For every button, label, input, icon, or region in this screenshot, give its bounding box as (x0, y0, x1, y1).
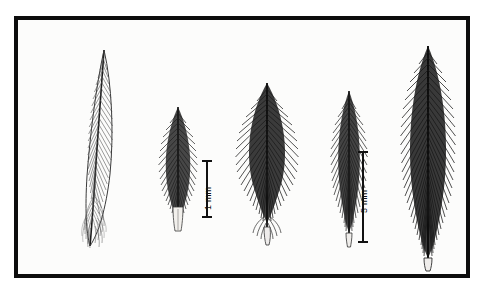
scale-bar-1mm-top-cap (202, 160, 212, 162)
body-feather-narrow-icon (320, 87, 378, 249)
scale-bar-1mm-bottom-cap (202, 216, 212, 218)
scale-bar-5mm-label: 5 mm (359, 190, 369, 213)
feather-plate-figure: 1 mm 5 mm (0, 0, 488, 295)
plate-inner-background: 1 mm 5 mm (18, 20, 466, 274)
specimen-contour-feather-whole (70, 44, 140, 254)
specimen-contour-feather-large (390, 42, 466, 272)
contour-feather-large-icon (390, 42, 466, 272)
specimen-body-feather-small (149, 103, 207, 235)
plate-frame: 1 mm 5 mm (14, 16, 470, 278)
scale-bar-5mm-top-cap (358, 151, 368, 153)
body-feather-small-icon (149, 103, 207, 235)
contour-feather-whole-icon (70, 44, 140, 254)
scale-bar-1mm-label: 1 mm (203, 187, 213, 210)
body-feather-wide-icon (224, 77, 310, 247)
scale-bar-5mm-bottom-cap (358, 241, 368, 243)
specimen-body-feather-narrow (320, 87, 378, 249)
specimen-body-feather-wide (224, 77, 310, 247)
